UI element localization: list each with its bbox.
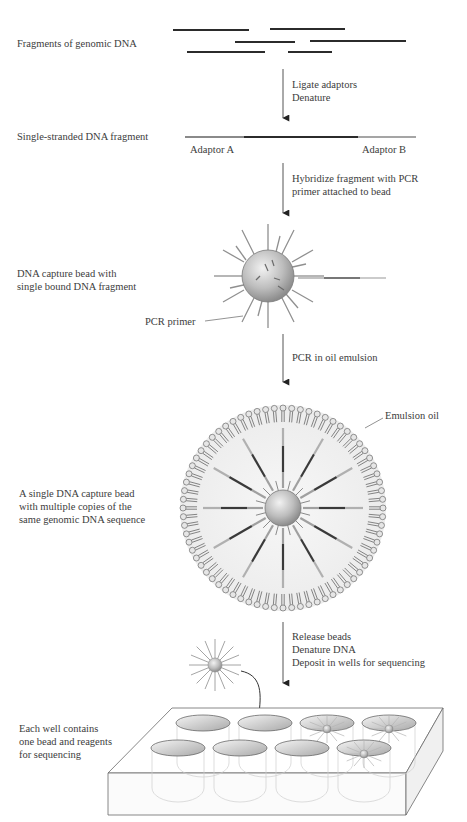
arrow-label-line: Denature DNA	[292, 643, 425, 656]
arrow-label-release: Release beads Denature DNA Deposit in we…	[292, 630, 425, 669]
label-line: Each well contains	[19, 722, 112, 735]
label-capture-bead: DNA capture bead with single bound DNA f…	[17, 267, 136, 293]
arrow-label-hybridize: Hybridize fragment with PCR primer attac…	[292, 172, 418, 198]
label-line: one bead and reagents	[19, 735, 112, 748]
emulsion-droplet	[180, 405, 386, 611]
arrow-label-line: Ligate adaptors	[292, 78, 357, 91]
arrow-label-pcr: PCR in oil emulsion	[292, 351, 377, 364]
label-line: A single DNA capture bead	[19, 487, 145, 500]
label-line: same genomic DNA sequence	[19, 513, 145, 526]
emulsion-oil-callout-line	[365, 418, 383, 428]
label-pcr-primer: PCR primer	[145, 315, 195, 328]
arrow-label-line: Deposit in wells for sequencing	[292, 656, 425, 669]
genomic-dna-fragments	[173, 29, 406, 52]
label-line: single bound DNA fragment	[17, 280, 136, 293]
arrow-label-line: Release beads	[292, 630, 425, 643]
label-line: for sequencing	[19, 748, 112, 761]
label-single-bead-copies: A single DNA capture bead with multiple …	[19, 487, 145, 526]
label-line: DNA capture bead with	[17, 267, 136, 280]
arrow-label-line: Denature	[292, 91, 357, 104]
label-line: with multiple copies of the	[19, 500, 145, 513]
label-emulsion-oil: Emulsion oil	[385, 409, 439, 422]
capture-bead-single	[214, 224, 386, 328]
label-wells: Each well contains one bead and reagents…	[19, 722, 112, 761]
arrow-label-line: primer attached to bead	[292, 185, 418, 198]
arrow-label-line: Hybridize fragment with PCR	[292, 172, 418, 185]
released-bead	[189, 639, 241, 691]
label-single-stranded: Single-stranded DNA fragment	[17, 130, 148, 143]
arrow-label-ligate: Ligate adaptors Denature	[292, 78, 357, 104]
well-plate	[108, 708, 443, 815]
pcr-primer-callout-line	[205, 316, 243, 321]
label-genomic-fragments: Fragments of genomic DNA	[17, 37, 137, 50]
label-adaptor-b: Adaptor B	[362, 143, 406, 156]
bead-deposit-arrow	[241, 671, 260, 713]
label-adaptor-a: Adaptor A	[190, 143, 234, 156]
